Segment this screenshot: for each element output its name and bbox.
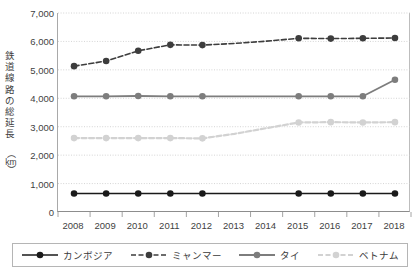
railway-length-line-chart: 鉄 道 線 路 の 総 延 長 ︵ km ︶ 01,0002,0003,0004…	[0, 0, 420, 272]
x-tick-label: 2014	[255, 220, 276, 231]
x-tick-label: 2017	[351, 220, 372, 231]
legend: カンボジアミャンマータイベトナム	[12, 243, 408, 267]
x-tick-label: 2012	[191, 220, 212, 231]
legend-item[interactable]: ミャンマー	[130, 248, 222, 262]
legend-label: ベトナム	[359, 248, 399, 262]
legend-label: ミャンマー	[172, 248, 222, 262]
legend-item[interactable]: カンボジア	[21, 248, 113, 262]
legend-key-swatch	[130, 250, 168, 260]
x-tick-label: 2008	[62, 220, 83, 231]
legend-label: タイ	[280, 248, 300, 262]
legend-key-swatch	[238, 250, 276, 260]
x-tick-label: 2018	[383, 220, 404, 231]
legend-key-swatch	[21, 250, 59, 260]
x-tick-label: 2009	[95, 220, 116, 231]
legend-item[interactable]: タイ	[238, 248, 300, 262]
legend-item[interactable]: ベトナム	[317, 248, 399, 262]
legend-key-swatch	[317, 250, 355, 260]
legend-label: カンボジア	[63, 248, 113, 262]
x-axis-tick-labels: 2008200920102011201220132014201520162017…	[0, 0, 420, 272]
x-tick-label: 2015	[287, 220, 308, 231]
x-tick-label: 2010	[127, 220, 148, 231]
x-tick-label: 2013	[223, 220, 244, 231]
x-tick-label: 2016	[319, 220, 340, 231]
x-tick-label: 2011	[159, 220, 179, 231]
